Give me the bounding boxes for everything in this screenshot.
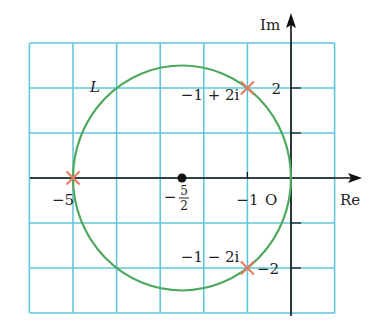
center-label-sign: − <box>164 188 177 206</box>
center-label: − 5 2 <box>164 184 189 213</box>
center-point <box>178 174 187 183</box>
point-label: −1 + 2i <box>181 86 240 104</box>
center-label-numerator: 5 <box>180 184 188 198</box>
real-axis-label: Re <box>340 191 360 209</box>
x-tick-label: −1 <box>236 191 258 209</box>
center-label-denominator: 2 <box>180 199 188 213</box>
origin-label: O <box>265 191 277 209</box>
complex-plane: Re Im O L − 5 2 −1 + 2i−1 − 2i −5−12−2 <box>0 0 384 331</box>
point-labels: −1 + 2i−1 − 2i <box>181 86 240 266</box>
curve-label: L <box>89 78 100 96</box>
point-label: −1 − 2i <box>181 248 240 266</box>
y-tick-label: −2 <box>257 260 279 278</box>
axes <box>30 13 362 316</box>
y-tick-label: 2 <box>271 80 281 98</box>
x-tick-label: −5 <box>52 191 74 209</box>
imaginary-axis-label: Im <box>260 16 280 34</box>
